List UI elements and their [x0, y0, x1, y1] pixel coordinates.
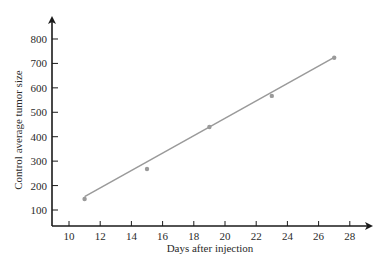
y-tick-label: 700	[31, 57, 48, 69]
y-tick-label: 200	[31, 180, 48, 192]
scatter-chart: 10121416182022242628 1002003004005006007…	[0, 0, 389, 266]
axes	[52, 18, 371, 226]
data-point	[270, 94, 274, 98]
x-tick-label: 28	[344, 230, 356, 242]
y-tick-label: 300	[31, 155, 48, 167]
x-axis-label: Days after injection	[167, 242, 254, 254]
y-axis-label: Control average tumor size	[12, 70, 24, 190]
x-tick-label: 26	[313, 230, 325, 242]
data-point	[332, 56, 336, 60]
x-tick-label: 18	[188, 230, 200, 242]
x-tick-label: 22	[251, 230, 262, 242]
x-tick-label: 16	[157, 230, 169, 242]
plot-area	[82, 56, 336, 202]
y-tick-label: 100	[31, 204, 48, 216]
y-tick-label: 500	[31, 106, 48, 118]
data-point	[207, 125, 211, 129]
y-tick-label: 600	[31, 82, 48, 94]
data-point	[82, 197, 86, 201]
x-tick-label: 24	[282, 230, 294, 242]
y-tick-label: 400	[31, 131, 48, 143]
y-ticks: 100200300400500600700800	[31, 33, 59, 216]
data-point	[145, 167, 149, 171]
y-tick-label: 800	[31, 33, 48, 45]
x-tick-label: 20	[220, 230, 232, 242]
x-tick-label: 14	[126, 230, 138, 242]
x-ticks: 10121416182022242628	[64, 221, 356, 242]
x-tick-label: 10	[64, 230, 76, 242]
x-tick-label: 12	[95, 230, 106, 242]
